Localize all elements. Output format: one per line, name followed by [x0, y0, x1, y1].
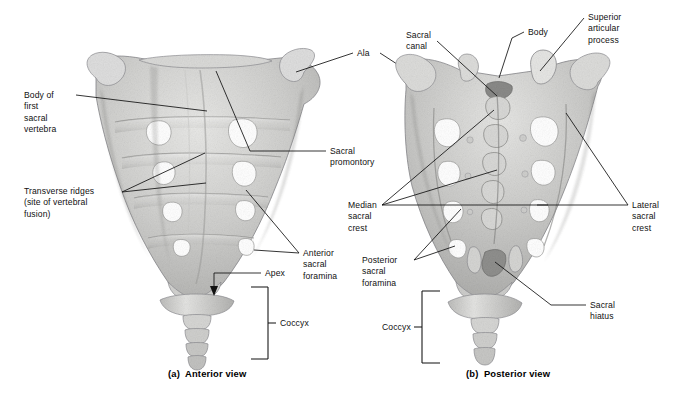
sacrum-posterior [396, 50, 610, 365]
sacrum-figure [0, 0, 690, 402]
caption-posterior-view: (b) Posterior view [466, 368, 550, 379]
label-transverse-ridges: Transverse ridges (site of vertebral fus… [24, 186, 94, 220]
leader-body [499, 32, 524, 78]
label-superior-articular-process: Superior articular process [588, 12, 621, 46]
label-ala: Ala [357, 48, 370, 59]
label-body-of-first-sacral-vertebra: Body of first sacral vertebra [24, 90, 56, 136]
label-sacral-promontory: Sacral promontory [330, 146, 374, 169]
label-apex: Apex [265, 268, 285, 279]
label-sacral-hiatus: Sacral hiatus [590, 300, 615, 323]
leader-anterior-sacral-foramina-1 [254, 250, 299, 253]
label-median-sacral-crest: Median sacral crest [348, 200, 377, 234]
label-lateral-sacral-crest: Lateral sacral crest [632, 200, 659, 234]
label-posterior-sacral-foramina: Posterior sacral foramina [362, 255, 397, 289]
label-coccyx-posterior: Coccyx [382, 322, 411, 333]
bracket-coccyx-posterior [414, 291, 440, 363]
label-body: Body [528, 27, 548, 38]
label-anterior-sacral-foramina: Anterior sacral foramina [303, 248, 337, 282]
label-sacral-canal: Sacral canal [406, 30, 431, 53]
caption-anterior-view: (a) Anterior view [168, 368, 246, 379]
label-coccyx-anterior: Coccyx [280, 318, 309, 329]
bracket-coccyx-anterior [251, 287, 276, 359]
